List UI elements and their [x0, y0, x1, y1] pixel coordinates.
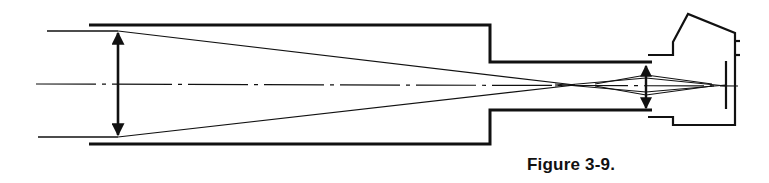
optical-diagram — [0, 0, 769, 183]
figure-caption: Figure 3-9. — [527, 155, 615, 175]
optical-axis — [36, 84, 738, 86]
figure — [0, 0, 769, 183]
